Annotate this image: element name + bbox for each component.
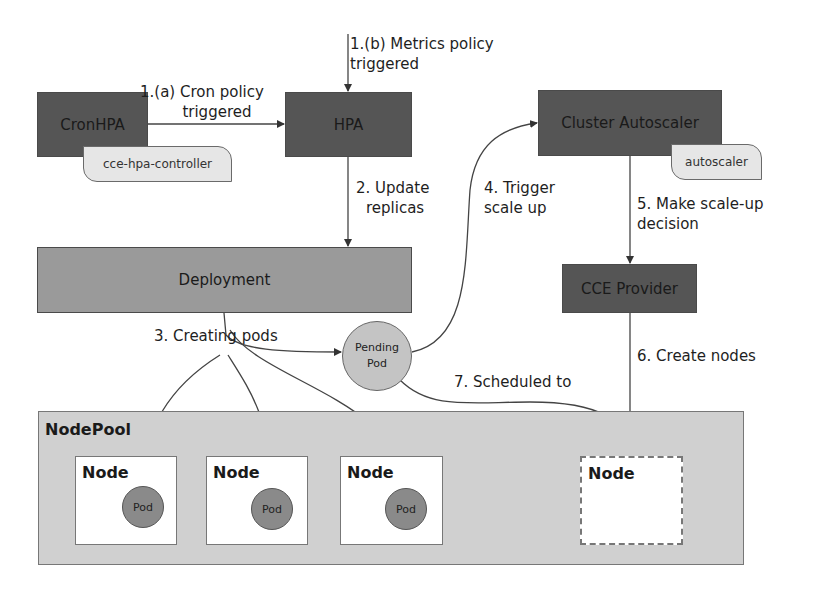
- pod-3: Pod: [385, 488, 427, 530]
- pending-pod-line1: Pending: [355, 340, 399, 356]
- autoscaler-tag: autoscaler: [671, 144, 762, 180]
- pending-pod: Pending Pod: [342, 321, 412, 391]
- pod-3-label: Pod: [396, 503, 416, 516]
- hpa-label: HPA: [334, 116, 364, 134]
- step-1b-label: 1.(b) Metrics policy triggered: [350, 34, 494, 74]
- cce-provider-box: CCE Provider: [562, 264, 697, 313]
- pod-1-label: Pod: [133, 501, 153, 514]
- step-1b-line2: triggered: [350, 54, 494, 74]
- autoscaler-tag-label: autoscaler: [685, 155, 748, 169]
- step-4-label: 4. Trigger scale up: [484, 178, 555, 218]
- new-node-label: Node: [588, 464, 635, 483]
- node-1-label: Node: [82, 463, 129, 482]
- step-2-line1: 2. Update: [356, 178, 429, 198]
- step-7-label: 7. Scheduled to: [454, 372, 571, 392]
- cce-hpa-controller-tag: cce-hpa-controller: [83, 146, 232, 182]
- pod-2: Pod: [251, 488, 293, 530]
- hpa-box: HPA: [285, 92, 412, 157]
- step-2-line2: replicas: [356, 198, 429, 218]
- nodepool-label: NodePool: [45, 420, 131, 439]
- cce-provider-label: CCE Provider: [581, 280, 678, 298]
- node-3-label: Node: [347, 463, 394, 482]
- step-5-line1: 5. Make scale-up: [637, 194, 763, 214]
- deployment-label: Deployment: [179, 271, 271, 289]
- step-2-label: 2. Update replicas: [356, 178, 429, 218]
- step-5-label: 5. Make scale-up decision: [637, 194, 763, 234]
- step-1b-line1: 1.(b) Metrics policy: [350, 34, 494, 54]
- cluster-autoscaler-label: Cluster Autoscaler: [561, 114, 699, 132]
- pod-2-label: Pod: [262, 503, 282, 516]
- deployment-box: Deployment: [37, 247, 412, 313]
- step-1a-label: 1.(a) Cron policy triggered: [140, 82, 264, 122]
- new-node: Node: [580, 456, 683, 545]
- step-4-line1: 4. Trigger: [484, 178, 555, 198]
- step-5-line2: decision: [637, 214, 763, 234]
- node-2-label: Node: [213, 463, 260, 482]
- step-1a-line1: 1.(a) Cron policy: [140, 82, 264, 102]
- step-4-line2: scale up: [484, 198, 555, 218]
- step-1a-line2: triggered: [140, 102, 264, 122]
- cronhpa-label: CronHPA: [60, 116, 125, 134]
- cce-hpa-controller-label: cce-hpa-controller: [103, 157, 212, 171]
- step-6-label: 6. Create nodes: [637, 346, 756, 366]
- arrow-pending-to-ca: [412, 123, 537, 352]
- pending-pod-line2: Pod: [367, 356, 387, 372]
- pod-1: Pod: [122, 486, 164, 528]
- step-3-label: 3. Creating pods: [154, 326, 278, 346]
